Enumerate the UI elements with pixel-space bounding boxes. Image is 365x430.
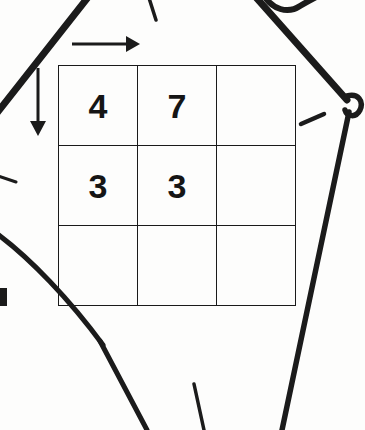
hook-squiggle-top-right — [263, 0, 326, 10]
table-row: 3 3 — [59, 146, 296, 226]
grid-cell-r3c2[interactable] — [138, 226, 217, 306]
grid-cell-r3c1[interactable] — [59, 226, 138, 306]
cell-value: 3 — [138, 169, 216, 203]
bottom-center-tick-mark — [194, 384, 204, 430]
grid-cell-r2c2[interactable]: 3 — [138, 146, 217, 226]
grid-cell-r1c1[interactable]: 4 — [59, 66, 138, 146]
grid-cell-r3c3-highlighted[interactable] — [217, 226, 296, 306]
top-center-tick-mark — [149, 0, 156, 20]
cell-value: 3 — [59, 169, 137, 203]
right-side-tick-mark — [301, 114, 324, 124]
grid-cell-r1c3[interactable] — [217, 66, 296, 146]
grid-cell-r1c2[interactable]: 7 — [138, 66, 217, 146]
diagonal-stroke-bottom-left — [100, 341, 147, 430]
table-row: 4 7 — [59, 66, 296, 146]
grid-cell-r2c3[interactable] — [217, 146, 296, 226]
puzzle-grid: 4 7 3 3 — [58, 65, 294, 304]
bottom-left-ink-blob — [0, 288, 7, 306]
grid-table: 4 7 3 3 — [58, 65, 296, 306]
cell-value: 7 — [138, 89, 216, 123]
row-direction-arrow — [26, 66, 50, 136]
column-direction-arrow — [70, 33, 140, 55]
left-side-tick-mark — [0, 176, 16, 182]
cell-value: 4 — [59, 89, 137, 123]
scanned-page: Scanned puzzle grid worksheet — [0, 0, 365, 430]
grid-cell-r2c1[interactable]: 3 — [59, 146, 138, 226]
table-row — [59, 226, 296, 306]
